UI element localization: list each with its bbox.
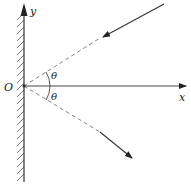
origin-label: O (4, 81, 13, 94)
y-axis-arrow-icon (21, 3, 28, 16)
incident-ray (103, 4, 164, 37)
angle-arc-upper (46, 72, 50, 86)
wall-hatching (17, 13, 24, 181)
angle-upper-label: θ (51, 70, 57, 81)
angle-lower-label: θ (51, 91, 57, 102)
origin-point (23, 85, 26, 88)
y-axis-label: y (29, 5, 37, 18)
angle-arc-lower (46, 86, 50, 100)
reflected-ray-dashed (24, 86, 100, 132)
incident-ray-dashed (24, 38, 100, 86)
reflected-ray (100, 132, 132, 158)
reflection-diagram: y x O θ θ (0, 0, 191, 188)
x-axis-label: x (179, 91, 186, 104)
